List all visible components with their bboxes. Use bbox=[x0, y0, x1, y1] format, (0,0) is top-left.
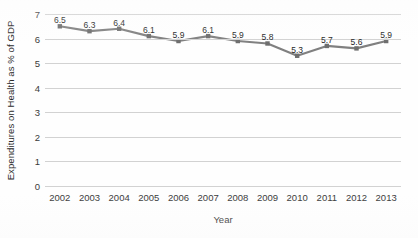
gridline bbox=[45, 137, 401, 138]
x-tick-label: 2005 bbox=[138, 192, 159, 203]
y-axis-title: Expenditures on Health as % of GDP bbox=[0, 0, 22, 200]
gridline bbox=[45, 112, 401, 113]
y-tick-label: 2 bbox=[35, 131, 40, 142]
x-tick-label: 2011 bbox=[317, 192, 337, 203]
data-point-label: 5.6 bbox=[351, 37, 363, 47]
data-point-label: 5.9 bbox=[173, 30, 185, 40]
y-tick-label: 5 bbox=[35, 58, 40, 69]
x-tick-label: 2003 bbox=[79, 192, 100, 203]
gridline bbox=[45, 88, 401, 89]
gridline bbox=[45, 39, 401, 40]
data-point-label: 6.5 bbox=[54, 15, 66, 25]
data-point-label: 5.9 bbox=[232, 30, 244, 40]
x-tick-label: 2013 bbox=[376, 192, 397, 203]
x-tick-label: 2004 bbox=[109, 192, 130, 203]
line-chart-figure: Expenditures on Health as % of GDP 01234… bbox=[0, 0, 418, 238]
data-point-label: 5.8 bbox=[262, 32, 274, 42]
y-tick-label: 0 bbox=[35, 181, 40, 192]
plot-area: 6.56.36.46.15.96.15.95.85.35.75.65.9 bbox=[45, 14, 401, 186]
series-line bbox=[60, 26, 386, 55]
series-line-svg bbox=[45, 14, 401, 186]
y-tick-label: 6 bbox=[35, 33, 40, 44]
y-tick-label: 4 bbox=[35, 82, 40, 93]
x-tick-label: 2012 bbox=[346, 192, 367, 203]
y-axis-tick-labels: 01234567 bbox=[22, 14, 42, 186]
data-point-label: 5.7 bbox=[321, 35, 333, 45]
data-point-label: 5.9 bbox=[380, 30, 392, 40]
gridline bbox=[45, 186, 401, 187]
data-point-label: 6.4 bbox=[113, 18, 125, 28]
x-tick-label: 2009 bbox=[257, 192, 278, 203]
y-tick-label: 3 bbox=[35, 107, 40, 118]
x-axis-tick-labels: 2002200320042005200620072008200920102011… bbox=[45, 190, 401, 206]
gridline bbox=[45, 63, 401, 64]
data-point-label: 5.3 bbox=[291, 45, 303, 55]
x-tick-label: 2007 bbox=[198, 192, 219, 203]
x-tick-label: 2008 bbox=[227, 192, 248, 203]
x-tick-label: 2010 bbox=[287, 192, 308, 203]
y-tick-label: 1 bbox=[35, 156, 40, 167]
gridline bbox=[45, 14, 401, 15]
y-axis-title-text: Expenditures on Health as % of GDP bbox=[6, 20, 17, 180]
data-point-label: 6.1 bbox=[143, 25, 155, 35]
gridline bbox=[45, 161, 401, 162]
data-point-label: 6.3 bbox=[84, 20, 96, 30]
x-axis-title: Year bbox=[45, 214, 401, 225]
data-point-label: 6.1 bbox=[202, 25, 214, 35]
y-tick-label: 7 bbox=[35, 9, 40, 20]
x-tick-label: 2006 bbox=[168, 192, 189, 203]
x-tick-label: 2002 bbox=[49, 192, 70, 203]
